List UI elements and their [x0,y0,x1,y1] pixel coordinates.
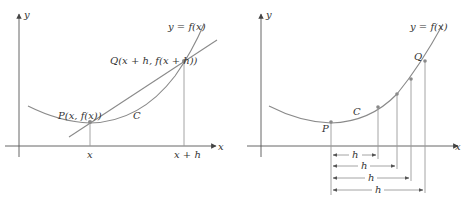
point-p [329,120,333,124]
curve-c-label: C [353,106,361,117]
point-p-label: P(x, f(x)) [57,110,102,121]
curve-c-label: C [133,110,141,121]
h-label-1: h [352,149,358,160]
x-axis-label: x [455,141,461,152]
y-axis-label: y [23,9,30,20]
left-panel: y x y = f(x) Q(x + h, f(x + h)) P(x, f(x… [5,9,224,160]
point-q-label: Q(x + h, f(x + h)) [110,55,198,66]
tick-x-plus-h-label: x + h [174,149,201,160]
x-axis-label: x [218,141,224,152]
curve-equation-label: y = f(x) [409,21,448,32]
point-q-label: Q [414,51,422,62]
secant-diagram: y x y = f(x) Q(x + h, f(x + h)) P(x, f(x… [0,0,462,201]
curve-c [28,24,204,123]
tick-x-label: x [87,149,93,160]
y-axis-label: y [265,9,272,20]
point-1 [376,105,380,109]
point-p-label: P [321,123,329,134]
point-q [423,59,427,63]
h-label-3: h [368,172,374,183]
point-3 [409,77,413,81]
h-label-2: h [361,160,367,171]
curve-equation-label: y = f(x) [167,21,206,32]
h-label-4: h [375,184,381,195]
point-2 [395,92,399,96]
right-panel: y x h h h h y = f(x) Q P C [247,9,461,195]
